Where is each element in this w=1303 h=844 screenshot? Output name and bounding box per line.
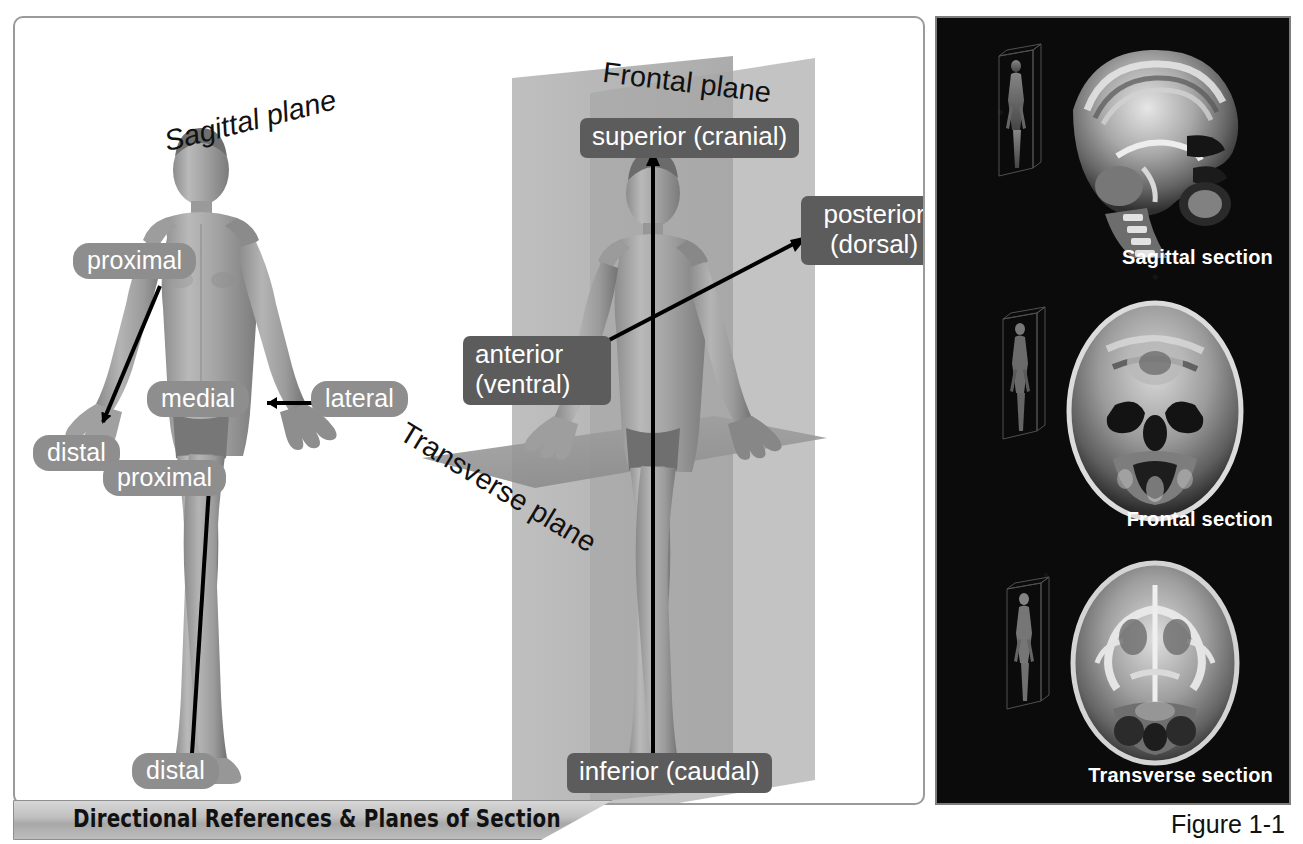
label-superior: superior (cranial) xyxy=(580,118,799,158)
label-proximal-lower: proximal xyxy=(103,460,226,496)
figure-caption-text: Directional References & Planes of Secti… xyxy=(73,805,561,833)
frontal-head-mri xyxy=(1069,303,1241,519)
figure-caption-banner: Directional References & Planes of Secti… xyxy=(13,800,613,840)
mini-body-thumbnail xyxy=(999,44,1041,176)
figure-number: Figure 1-1 xyxy=(1171,810,1285,839)
label-anterior-line2: (ventral) xyxy=(475,369,570,399)
mini-body-thumbnail xyxy=(1003,307,1045,439)
label-inferior: inferior (caudal) xyxy=(567,753,772,793)
transverse-head-mri xyxy=(1073,563,1237,763)
mini-body-thumbnail xyxy=(1007,577,1049,709)
label-medial: medial xyxy=(147,381,249,417)
label-anterior-line1: anterior xyxy=(475,339,563,369)
label-proximal-upper: proximal xyxy=(73,243,196,279)
caption-frontal-section: Frontal section xyxy=(1127,508,1273,531)
caption-transverse-section: Transverse section xyxy=(1088,764,1273,787)
label-posterior: posterior (dorsal) xyxy=(801,196,925,265)
illustration-panel: proximal medial lateral distal proximal … xyxy=(13,16,925,805)
sagittal-section-block: Sagittal section xyxy=(937,18,1289,283)
sagittal-head-mri xyxy=(1073,50,1238,258)
label-anterior: anterior (ventral) xyxy=(463,336,611,405)
transverse-section-block: Transverse section xyxy=(937,545,1289,803)
label-posterior-line1: posterior xyxy=(823,199,924,229)
sagittal-section-graphic xyxy=(937,18,1291,283)
label-distal-foot: distal xyxy=(132,753,219,789)
frontal-section-graphic xyxy=(937,283,1291,545)
label-lateral: lateral xyxy=(311,381,408,417)
caption-sagittal-section: Sagittal section xyxy=(1122,246,1273,269)
mri-sections-panel: Sagittal section xyxy=(935,16,1291,805)
frontal-section-block: Frontal section xyxy=(937,283,1289,545)
label-posterior-line2: (dorsal) xyxy=(830,229,918,259)
